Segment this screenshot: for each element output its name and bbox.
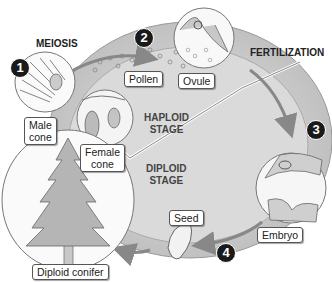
step-badge-2: 2 bbox=[134, 28, 154, 48]
step-badge-3: 3 bbox=[306, 120, 326, 140]
female-cone-label: Female cone bbox=[80, 144, 125, 172]
ovule-label: Ovule bbox=[178, 73, 215, 89]
pollen-label: Pollen bbox=[124, 71, 163, 87]
diploid-conifer-label: Diploid conifer bbox=[32, 264, 109, 280]
embryo-label: Embryo bbox=[257, 227, 303, 243]
diploid-stage-label: DIPLOID STAGE bbox=[146, 163, 187, 187]
fertilization-title: FERTILIZATION bbox=[250, 47, 324, 58]
meiosis-title: MEIOSIS bbox=[36, 38, 78, 49]
seed-label: Seed bbox=[169, 210, 204, 226]
conifer-life-cycle-diagram: MEIOSIS FERTILIZATION 1 2 3 4 HAPLOID ST… bbox=[0, 0, 332, 282]
male-cone-label: Male cone bbox=[24, 117, 57, 145]
ovule-illustration bbox=[174, 8, 234, 68]
haploid-stage-label: HAPLOID STAGE bbox=[144, 112, 189, 136]
arrow-seed-to-conifer bbox=[120, 250, 150, 253]
step-badge-1: 1 bbox=[10, 58, 30, 78]
step-badge-4: 4 bbox=[216, 243, 236, 263]
embryo-illustration bbox=[256, 153, 326, 223]
